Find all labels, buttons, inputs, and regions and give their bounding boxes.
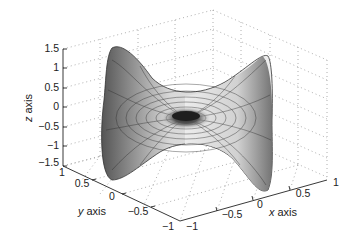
svg-text:1: 1 (333, 176, 339, 188)
svg-text:−0.5: −0.5 (222, 208, 243, 220)
y-axis-label: y axis (77, 205, 107, 217)
svg-text:−1: −1 (47, 139, 59, 151)
x-axis-label: x axis (268, 206, 298, 218)
svg-text:−1.5: −1.5 (38, 156, 59, 168)
saddle-surface (102, 47, 273, 191)
svg-text:1: 1 (53, 61, 59, 73)
svg-text:−1: −1 (162, 220, 174, 232)
svg-text:−1: −1 (186, 220, 198, 232)
svg-text:−0.5: −0.5 (128, 205, 149, 217)
svg-text:1: 1 (59, 166, 65, 178)
svg-text:−0.5: −0.5 (38, 120, 59, 132)
svg-text:0.5: 0.5 (75, 177, 90, 189)
svg-text:0: 0 (257, 198, 263, 210)
svg-text:0.5: 0.5 (44, 81, 59, 93)
z-axis-label: z axis (22, 93, 34, 123)
svg-text:0: 0 (53, 100, 59, 112)
z-tick-labels: 1.5 1 0.5 0 −0.5 −1 −1.5 (38, 42, 59, 168)
surface-plot: 1.5 1 0.5 0 −0.5 −1 −1.5 1 0.5 0 −0.5 −1… (0, 0, 359, 239)
svg-text:1.5: 1.5 (44, 42, 59, 54)
svg-text:0: 0 (109, 190, 115, 202)
svg-text:0.5: 0.5 (296, 187, 311, 199)
